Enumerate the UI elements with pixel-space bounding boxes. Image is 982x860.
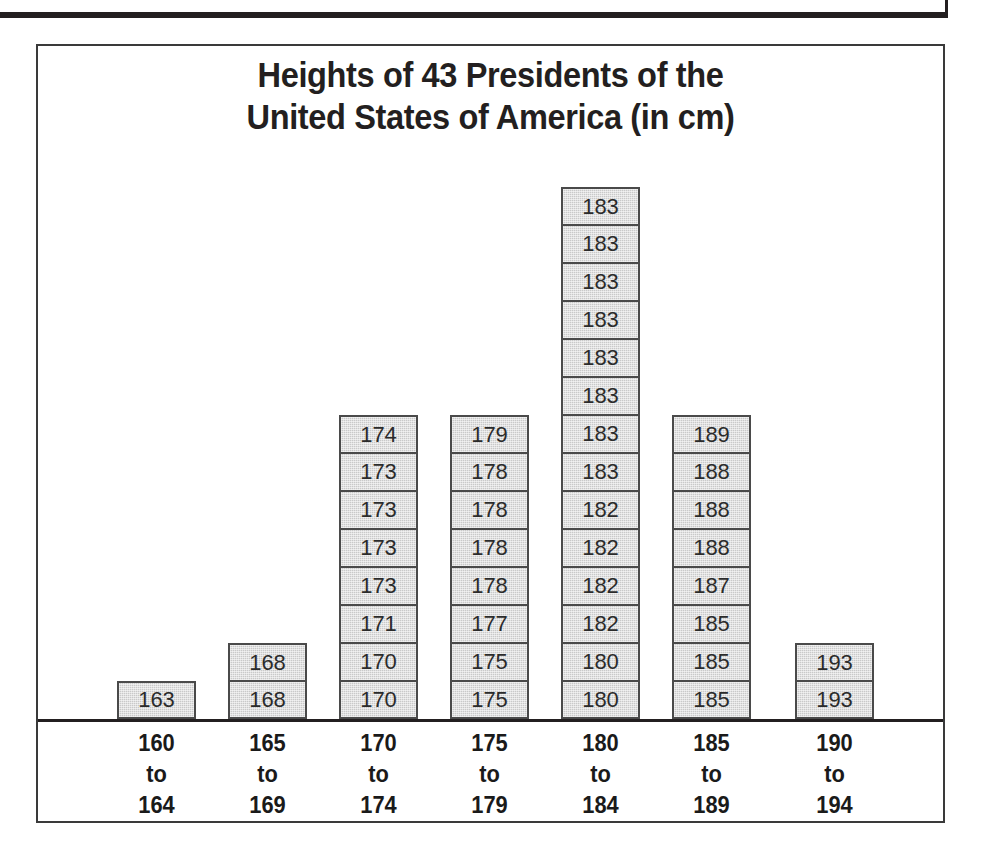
stack-cell: 171 (339, 605, 418, 643)
stack-cell: 178 (450, 453, 529, 491)
stack-cell: 173 (339, 529, 418, 567)
axis-label-end: 189 (674, 790, 749, 821)
stack-cell: 183 (561, 225, 640, 263)
stack-cell: 188 (672, 491, 751, 529)
stack-column: 168168 (228, 643, 307, 719)
stack-cell: 180 (561, 681, 640, 719)
axis-label-start: 165 (230, 728, 305, 759)
stack-cell: 178 (450, 567, 529, 605)
axis-label-start: 175 (452, 728, 527, 759)
stack-cell: 173 (339, 491, 418, 529)
stack-column: 179178178178178177175175 (450, 415, 529, 719)
stack-cell: 163 (117, 681, 196, 719)
stack-column: 1831831831831831831831831821821821821801… (561, 187, 640, 719)
stack-cell: 188 (672, 529, 751, 567)
axis-label-end: 164 (119, 790, 194, 821)
stack-cell: 182 (561, 491, 640, 529)
axis-label-group: 165to169 (230, 728, 305, 821)
stack-cell: 182 (561, 605, 640, 643)
axis-label-connector: to (341, 759, 416, 790)
stack-cell: 168 (228, 643, 307, 681)
stack-cell: 175 (450, 681, 529, 719)
stack-column: 189188188188187185185185 (672, 415, 751, 719)
axis-label-group: 160to164 (119, 728, 194, 821)
plot-area: 1631681681741731731731731711701701791781… (38, 46, 943, 719)
axis-label-connector: to (563, 759, 638, 790)
stack-cell: 170 (339, 643, 418, 681)
axis-label-end: 184 (563, 790, 638, 821)
stack-cell: 182 (561, 529, 640, 567)
stack-cell: 188 (672, 453, 751, 491)
stack-cell: 185 (672, 605, 751, 643)
stack-cell: 182 (561, 567, 640, 605)
stack-cell: 183 (561, 339, 640, 377)
stack-cell: 170 (339, 681, 418, 719)
axis-label-start: 160 (119, 728, 194, 759)
chart-frame: Heights of 43 Presidents of the United S… (36, 44, 945, 823)
axis-label-connector: to (230, 759, 305, 790)
stack-cell: 173 (339, 567, 418, 605)
stack-cell: 193 (795, 643, 874, 681)
stack-column: 163 (117, 681, 196, 719)
axis-label-connector: to (674, 759, 749, 790)
axis-label-start: 190 (797, 728, 872, 759)
stack-column: 193193 (795, 643, 874, 719)
stack-cell: 183 (561, 453, 640, 491)
stack-column: 174173173173173171170170 (339, 415, 418, 719)
stack-cell: 183 (561, 263, 640, 301)
axis-label-connector: to (119, 759, 194, 790)
axis-label-group: 180to184 (563, 728, 638, 821)
axis-label-start: 180 (563, 728, 638, 759)
axis-label-connector: to (452, 759, 527, 790)
axis-label-start: 185 (674, 728, 749, 759)
stack-cell: 183 (561, 301, 640, 339)
axis-label-start: 170 (341, 728, 416, 759)
axis-label-group: 190to194 (797, 728, 872, 821)
stack-cell: 183 (561, 415, 640, 453)
stack-cell: 175 (450, 643, 529, 681)
axis-label-end: 174 (341, 790, 416, 821)
axis-label-group: 170to174 (341, 728, 416, 821)
stack-cell: 183 (561, 187, 640, 225)
x-axis-labels: 160to164165to169170to174175to179180to184… (38, 722, 943, 822)
axis-label-end: 194 (797, 790, 872, 821)
stack-cell: 193 (795, 681, 874, 719)
axis-label-end: 169 (230, 790, 305, 821)
stack-cell: 185 (672, 681, 751, 719)
stack-cell: 168 (228, 681, 307, 719)
stack-cell: 178 (450, 529, 529, 567)
stack-cell: 174 (339, 415, 418, 453)
stack-cell: 189 (672, 415, 751, 453)
stack-cell: 180 (561, 643, 640, 681)
axis-label-connector: to (797, 759, 872, 790)
stack-cell: 179 (450, 415, 529, 453)
upper-box-frame-fragment (0, 0, 948, 18)
stack-cell: 178 (450, 491, 529, 529)
stack-cell: 173 (339, 453, 418, 491)
axis-label-group: 175to179 (452, 728, 527, 821)
stack-cell: 187 (672, 567, 751, 605)
stack-cell: 185 (672, 643, 751, 681)
axis-label-end: 179 (452, 790, 527, 821)
axis-label-group: 185to189 (674, 728, 749, 821)
stack-cell: 177 (450, 605, 529, 643)
stack-cell: 183 (561, 377, 640, 415)
